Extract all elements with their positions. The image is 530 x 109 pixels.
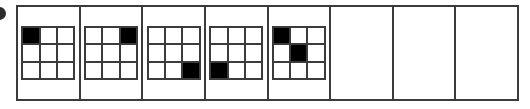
grid-square-r3c3[interactable] — [58, 63, 73, 78]
grid-square-r3c2[interactable] — [291, 63, 306, 78]
grid-square-r2c3[interactable] — [58, 45, 73, 60]
frame-cell-6[interactable] — [331, 7, 394, 99]
frame-cell-8[interactable] — [456, 7, 517, 99]
grid-square-r3c3[interactable] — [121, 63, 136, 78]
grid-square-r1c2[interactable] — [166, 28, 181, 43]
pattern-grid-1 — [21, 26, 75, 80]
frame-cell-4[interactable] — [206, 7, 269, 99]
grid-square-r2c3[interactable] — [246, 45, 261, 60]
grid-square-r3c2[interactable] — [41, 63, 56, 78]
grid-square-r3c3[interactable] — [308, 63, 323, 78]
grid-square-r1c3[interactable] — [308, 28, 323, 43]
grid-square-r1c1[interactable] — [149, 28, 164, 43]
grid-square-r1c2[interactable] — [291, 28, 306, 43]
pattern-grid-4 — [209, 26, 263, 80]
grid-square-r1c2[interactable] — [41, 28, 56, 43]
pattern-grid-3 — [147, 26, 201, 80]
pattern-grid-5 — [272, 26, 326, 80]
grid-square-r3c1[interactable] — [23, 63, 38, 78]
grid-square-r2c2[interactable] — [166, 45, 181, 60]
grid-square-r1c3[interactable] — [246, 28, 261, 43]
grid-square-r1c3[interactable] — [183, 28, 198, 43]
frame-cell-5[interactable] — [269, 7, 332, 99]
grid-square-r2c1[interactable] — [23, 45, 38, 60]
grid-square-r2c1[interactable] — [211, 45, 226, 60]
grid-square-r2c2[interactable] — [291, 45, 306, 60]
grid-square-r1c1[interactable] — [211, 28, 226, 43]
grid-square-r2c2[interactable] — [103, 45, 118, 60]
grid-square-r3c1[interactable] — [86, 63, 101, 78]
sequence-figure — [0, 0, 530, 109]
frame-cell-2[interactable] — [81, 7, 144, 99]
grid-square-r1c2[interactable] — [103, 28, 118, 43]
grid-square-r2c3[interactable] — [121, 45, 136, 60]
frame-cell-3[interactable] — [143, 7, 206, 99]
frame-cell-1[interactable] — [18, 7, 81, 99]
grid-square-r3c3[interactable] — [183, 63, 198, 78]
grid-square-r2c1[interactable] — [149, 45, 164, 60]
frame-cell-7[interactable] — [394, 7, 457, 99]
grid-square-r3c3[interactable] — [246, 63, 261, 78]
grid-square-r1c1[interactable] — [23, 28, 38, 43]
grid-square-r3c1[interactable] — [211, 63, 226, 78]
grid-square-r3c2[interactable] — [166, 63, 181, 78]
grid-square-r2c1[interactable] — [86, 45, 101, 60]
grid-square-r3c1[interactable] — [149, 63, 164, 78]
grid-square-r1c2[interactable] — [229, 28, 244, 43]
grid-square-r2c3[interactable] — [183, 45, 198, 60]
grid-square-r2c3[interactable] — [308, 45, 323, 60]
grid-square-r2c2[interactable] — [229, 45, 244, 60]
grid-square-r2c1[interactable] — [274, 45, 289, 60]
grid-square-r2c2[interactable] — [41, 45, 56, 60]
grid-square-r1c3[interactable] — [121, 28, 136, 43]
pattern-grid-2 — [84, 26, 138, 80]
bullet-circle-icon — [0, 7, 6, 20]
grid-square-r1c3[interactable] — [58, 28, 73, 43]
grid-square-r1c1[interactable] — [274, 28, 289, 43]
frame-strip — [16, 5, 519, 101]
grid-square-r3c2[interactable] — [229, 63, 244, 78]
grid-square-r3c2[interactable] — [103, 63, 118, 78]
grid-square-r1c1[interactable] — [86, 28, 101, 43]
grid-square-r3c1[interactable] — [274, 63, 289, 78]
